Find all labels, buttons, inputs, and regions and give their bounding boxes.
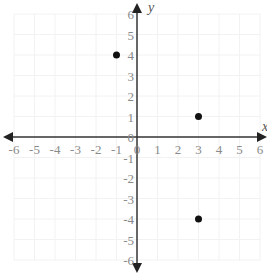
y-tick-label: 6 xyxy=(128,7,135,22)
y-tick-label: 2 xyxy=(128,89,135,104)
x-tick-label: -4 xyxy=(50,142,61,157)
data-point xyxy=(113,52,120,59)
x-tick-label: 6 xyxy=(257,142,264,157)
y-tick-label: 0 xyxy=(128,130,135,145)
x-tick-label: 1 xyxy=(154,142,161,157)
x-axis-left-arrow-icon xyxy=(3,132,13,142)
coordinate-plane: y x -6-5-4-3-2-10123456 -6-5-4-3-2-10123… xyxy=(0,0,267,275)
y-tick-label: -1 xyxy=(123,151,134,166)
y-tick-label: 4 xyxy=(128,48,135,63)
y-tick-label: 3 xyxy=(128,69,135,84)
data-point xyxy=(195,216,202,223)
x-tick-label: -6 xyxy=(9,142,20,157)
x-tick-label: -1 xyxy=(111,142,122,157)
x-tick-label: -2 xyxy=(91,142,102,157)
x-tick-label: 5 xyxy=(236,142,243,157)
x-tick-label: 4 xyxy=(216,142,223,157)
axes: y x xyxy=(3,0,267,273)
y-tick-label: -4 xyxy=(123,212,134,227)
y-tick-label: 1 xyxy=(128,110,135,125)
y-tick-label: -2 xyxy=(123,171,134,186)
y-tick-label: -6 xyxy=(123,253,134,268)
x-tick-label: 2 xyxy=(175,142,182,157)
x-tick-label: -3 xyxy=(70,142,81,157)
x-axis-label: x xyxy=(261,119,267,134)
x-tick-label: 3 xyxy=(195,142,202,157)
x-tick-label: 0 xyxy=(134,142,141,157)
y-axis-label: y xyxy=(146,0,155,15)
y-tick-label: -5 xyxy=(123,233,134,248)
x-tick-labels: -6-5-4-3-2-10123456 xyxy=(9,142,264,157)
x-tick-label: -5 xyxy=(29,142,40,157)
y-tick-label: -3 xyxy=(123,192,134,207)
data-point xyxy=(195,113,202,120)
y-tick-label: 5 xyxy=(128,28,135,43)
